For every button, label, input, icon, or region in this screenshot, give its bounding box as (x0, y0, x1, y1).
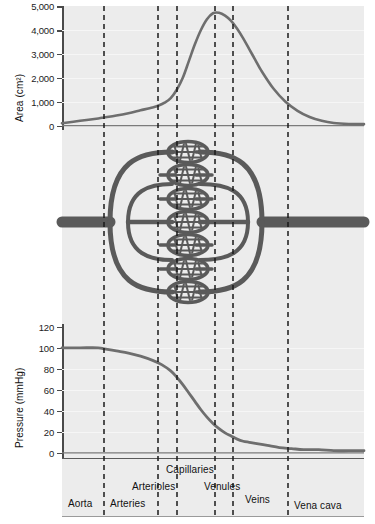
segment-label-arteries: Arteries (110, 498, 145, 509)
segment-label-venules: Venules (204, 481, 240, 492)
label-band-bottom-rule (62, 516, 364, 517)
pressure-curve-layer (0, 0, 375, 524)
segment-label-arterioles: Arterioles (132, 481, 175, 492)
segment-label-capillaries: Capillaries (166, 464, 214, 475)
pressure-curve-path (62, 348, 364, 451)
vascular-area-pressure-figure: Area (cm²) 0 1,000 2,000 3,000 4,000 5,0… (0, 0, 375, 524)
segment-label-aorta: Aorta (68, 498, 92, 509)
label-band-top-rule (62, 458, 364, 459)
segment-label-vena-cava: Vena cava (294, 500, 342, 511)
segment-label-veins: Veins (245, 494, 270, 505)
